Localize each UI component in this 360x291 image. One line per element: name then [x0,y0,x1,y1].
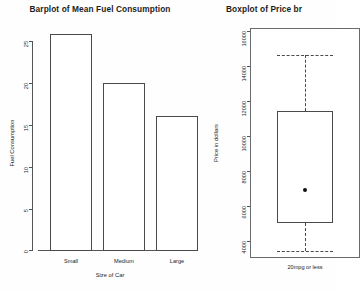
barplot-xtick-label-large: Large [156,258,198,264]
boxplot-ytick-10000 [247,136,250,137]
barplot-ytick-label-15: 15 [23,125,29,143]
boxplot-upper-whisker [305,55,306,111]
barplot-xtick-label-small: Small [50,258,92,264]
bar-small[interactable] [50,34,92,251]
boxplot-ytick-label-16000: 16000 [241,31,247,53]
barplot-xtick-label-medium: Medium [103,258,145,264]
boxplot-ytick-16000 [247,31,250,32]
barplot-ytick-label-0: 0 [23,250,29,268]
boxplot-panel: Boxplot of Price br 16000 14000 12000 10… [200,0,337,291]
barplot-title: Barplot of Mean Fuel Consumption [29,4,170,14]
barplot-ytick-20 [29,83,32,84]
boxplot-ytick-label-4000: 4000 [241,241,247,263]
boxplot-ytick-4000 [247,241,250,242]
barplot-ytick-5 [29,209,32,210]
boxplot-title: Boxplot of Price br [226,4,302,14]
boxplot-xtick-label: 20mpg or less [272,264,338,270]
barplot-ytick-25 [29,41,32,42]
barplot-ytick-label-20: 20 [23,83,29,101]
barplot-ytick-0 [29,250,32,251]
barplot-x-axis-title: Size of Car [70,272,150,278]
barplot-ytick-15 [29,125,32,126]
barplot-panel: Barplot of Mean Fuel Consumption 25 20 1… [0,0,200,291]
boxplot-ytick-label-10000: 10000 [241,136,247,158]
boxplot-iqr-box[interactable] [277,111,333,223]
barplot-y-axis-title: Fuel Consumption [9,113,15,173]
boxplot-ytick-label-6000: 6000 [241,206,247,228]
boxplot-median-marker [303,188,307,192]
boxplot-ytick-14000 [247,66,250,67]
barplot-ytick-label-10: 10 [23,167,29,185]
barplot-ytick-label-5: 5 [23,209,29,227]
barplot-ytick-10 [29,167,32,168]
bar-large[interactable] [156,116,198,251]
boxplot-ytick-6000 [247,206,250,207]
barplot-y-axis [32,41,33,251]
boxplot-ytick-label-12000: 12000 [241,101,247,123]
boxplot-y-axis-title: Price in dollars [213,113,219,173]
barplot-ytick-label-25: 25 [23,41,29,59]
boxplot-ytick-12000 [247,101,250,102]
boxplot-ytick-label-14000: 14000 [241,66,247,88]
boxplot-lower-whisker [305,223,306,251]
boxplot-lower-whisker-cap [277,251,333,252]
boxplot-ytick-8000 [247,171,250,172]
bar-medium[interactable] [103,83,145,251]
boxplot-ytick-label-8000: 8000 [241,171,247,193]
